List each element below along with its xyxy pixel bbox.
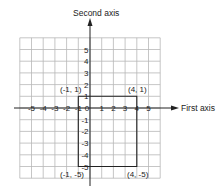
x-tick-label: -5 <box>28 104 36 113</box>
x-tick-label: -1 <box>75 104 83 113</box>
y-tick-label: 2 <box>84 81 89 90</box>
first-axis-label: First axis <box>181 104 215 112</box>
x-tick-label: 5 <box>146 104 151 113</box>
x-tick-label: 1 <box>99 104 104 113</box>
x-tick-label: -3 <box>51 104 59 113</box>
y-tick-label: 1 <box>84 92 89 101</box>
y-tick-label: 5 <box>84 46 89 55</box>
x-tick-label: -4 <box>40 104 48 113</box>
first-axis-arrow-icon <box>171 106 179 111</box>
point-label-top-right: (4, 1) <box>128 86 147 94</box>
y-tick-label: 4 <box>84 57 89 66</box>
x-tick-label: 2 <box>111 104 116 113</box>
point-label-bottom-left: (-1, -5) <box>60 171 84 179</box>
axes <box>14 18 179 186</box>
y-tick-label: -1 <box>81 116 89 125</box>
x-tick-label: 4 <box>135 104 140 113</box>
y-tick-label: 3 <box>84 69 89 78</box>
coordinate-grid: -5-4-3-2-1012345 54321-1-2-3-4-5 <box>0 0 223 193</box>
second-axis-label: Second axis <box>73 9 119 17</box>
y-tick-label: -4 <box>81 151 89 160</box>
x-tick-label: 3 <box>123 104 128 113</box>
x-tick-label: 0 <box>85 104 90 113</box>
x-tick-label: -2 <box>63 104 71 113</box>
y-tick-label: -3 <box>81 139 89 148</box>
coordinate-plane-diagram: -5-4-3-2-1012345 54321-1-2-3-4-5 Second … <box>0 0 223 193</box>
second-axis-arrow-icon <box>88 18 93 26</box>
y-tick-label: -2 <box>81 127 89 136</box>
point-label-bottom-right: (4, -5) <box>127 171 148 179</box>
point-label-top-left: (-1, 1) <box>60 86 81 94</box>
